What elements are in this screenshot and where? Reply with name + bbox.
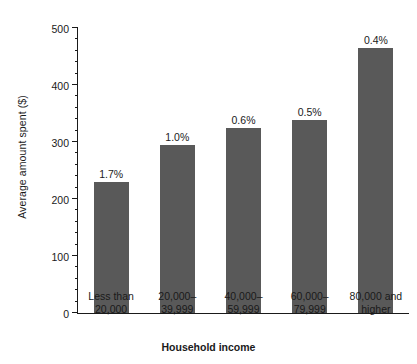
bar-value-label: 0.4%	[364, 34, 388, 46]
y-tick-label: 500	[51, 23, 69, 35]
y-tick-minor	[75, 164, 79, 165]
y-tick-minor	[75, 152, 79, 153]
x-axis-category-label: 80,000 andhigher	[326, 290, 417, 315]
bar-group[interactable]: 0.6%	[226, 28, 261, 313]
bar-rect[interactable]	[160, 145, 195, 313]
y-tick-major	[72, 84, 78, 85]
bar-rect[interactable]	[358, 48, 393, 313]
y-tick-minor	[75, 278, 79, 279]
y-tick-label: 400	[51, 80, 69, 92]
y-tick-label: 300	[51, 137, 69, 149]
y-tick-minor	[75, 266, 79, 267]
y-tick-minor	[75, 118, 79, 119]
y-axis-line	[77, 28, 78, 313]
bar-value-label: 0.6%	[232, 114, 256, 126]
bar-value-label: 1.0%	[165, 131, 189, 143]
y-tick-minor	[75, 221, 79, 222]
y-tick-minor	[75, 73, 79, 74]
y-tick-minor	[75, 187, 79, 188]
bar-rect[interactable]	[226, 128, 261, 313]
bar-value-label: 1.7%	[99, 168, 123, 180]
y-axis-title: Average amount spent ($)	[14, 0, 30, 313]
plot-area: 0100200300400500 1.7%1.0%0.6%0.5%0.4%	[78, 28, 409, 313]
y-axis-title-text: Average amount spent ($)	[16, 95, 28, 219]
bar-value-label: 0.5%	[298, 106, 322, 118]
bar-group[interactable]: 0.4%	[358, 28, 393, 313]
y-tick-minor	[75, 95, 79, 96]
y-tick-major	[72, 27, 78, 28]
category-label-line: higher	[326, 303, 417, 316]
y-tick-major	[72, 141, 78, 142]
bar-group[interactable]: 1.0%	[160, 28, 195, 313]
y-tick-label: 100	[51, 251, 69, 263]
bar-group[interactable]: 1.7%	[94, 28, 129, 313]
y-tick-minor	[75, 107, 79, 108]
bar-group[interactable]: 0.5%	[292, 28, 327, 313]
y-tick-minor	[75, 209, 79, 210]
y-tick-minor	[75, 50, 79, 51]
y-tick-label: 200	[51, 194, 69, 206]
category-label-line: 80,000 and	[326, 290, 417, 303]
x-axis-title: Household income	[0, 341, 417, 353]
y-tick-minor	[75, 130, 79, 131]
bar-chart: Average amount spent ($) 010020030040050…	[0, 0, 417, 364]
y-tick-minor	[75, 61, 79, 62]
y-tick-major	[72, 198, 78, 199]
y-tick-minor	[75, 244, 79, 245]
bar-rect[interactable]	[292, 120, 327, 313]
y-tick-minor	[75, 232, 79, 233]
y-tick-minor	[75, 175, 79, 176]
y-tick-major	[72, 255, 78, 256]
y-tick-minor	[75, 38, 79, 39]
